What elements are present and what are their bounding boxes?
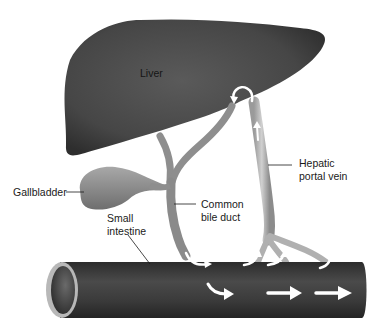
- left-hepatic-duct: [160, 136, 171, 182]
- label-liver: Liver: [140, 67, 163, 79]
- label-small-intestine-line2: intestine: [107, 225, 146, 237]
- intestine-lumen: [51, 266, 75, 314]
- liver: [65, 19, 325, 155]
- label-common-bile-duct-line1: Common: [201, 198, 244, 210]
- common-bile-duct: [171, 182, 186, 256]
- leader-small-intestine: [128, 235, 150, 264]
- label-hepatic-portal-vein-line1: Hepatic: [299, 157, 335, 169]
- label-gallbladder: Gallbladder: [13, 186, 67, 198]
- label-small-intestine-line1: Small: [107, 212, 133, 224]
- label-common-bile-duct-line2: bile duct: [201, 211, 240, 223]
- arrow-portal-vein-up: [257, 126, 258, 140]
- label-hepatic-portal-vein-line2: portal vein: [299, 170, 347, 182]
- cystic-duct: [150, 186, 170, 188]
